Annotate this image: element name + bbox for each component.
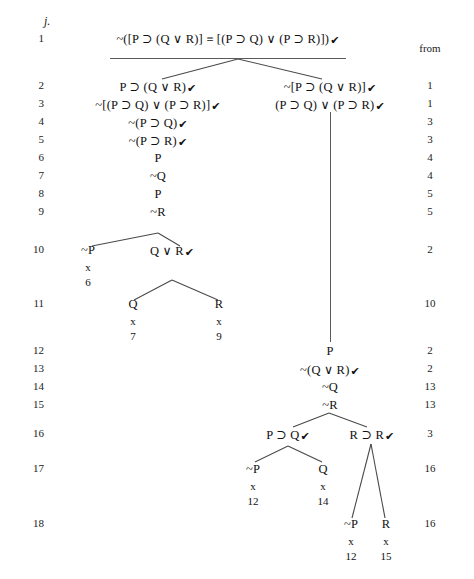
tree-node-r18b: R (382, 517, 391, 532)
from-value-row-2: 1 (417, 79, 443, 91)
line-number-15: 15 (22, 398, 44, 410)
closure-x-glyph: x (130, 315, 136, 327)
tree-node-l7: ~Q (150, 169, 166, 184)
tree-node-root-text: ~([P ⊃ (Q ∨ R)] ≡ [(P ⊃ Q) ∨ (P ⊃ R)]) (116, 32, 329, 46)
tree-node-r17b: Q (318, 462, 327, 477)
closure-mark-r18a: x (348, 535, 354, 547)
from-column-header: from (410, 42, 450, 54)
line-number-14: 14 (22, 380, 44, 392)
closure-mark-r17b: x (320, 480, 326, 492)
checkmark-icon: ✔ (177, 136, 187, 149)
line-number-5: 5 (22, 133, 44, 145)
line-number-8: 8 (22, 187, 44, 199)
tree-node-l8: P (154, 187, 161, 202)
closure-ref-r18a: 12 (346, 550, 357, 562)
tree-node-r16a-text: P ⊃ Q (266, 428, 299, 442)
from-value-row-6: 4 (417, 151, 443, 163)
closure-ref-l11a: 7 (130, 330, 136, 342)
checkmark-icon: ✔ (329, 34, 339, 47)
line-number-6: 6 (22, 151, 44, 163)
tree-node-l11b: R (215, 297, 224, 312)
closure-mark-l10a: x (85, 261, 91, 273)
line-number-2: 2 (22, 79, 44, 91)
closure-ref-l10a: 6 (85, 276, 91, 288)
closure-mark-l11a: x (130, 315, 136, 327)
tree-node-r13: ~(Q ∨ R)✔ (300, 362, 360, 378)
from-value-row-15: 13 (417, 398, 443, 410)
from-value-row-13: 2 (417, 362, 443, 374)
closure-ref-r17a: 12 (248, 495, 259, 507)
checkmark-icon: ✔ (177, 118, 187, 131)
tree-node-r17a: ~P (246, 462, 260, 477)
tree-node-r16b: R ⊃ R✔ (350, 427, 395, 443)
closure-x-glyph: x (320, 480, 326, 492)
closure-mark-r17a: x (250, 480, 256, 492)
line-number-12: 12 (22, 344, 44, 356)
tree-node-l4-text: ~(P ⊃ Q) (128, 116, 177, 130)
closure-ref-text: 6 (85, 276, 91, 288)
tree-node-r16b-text: R ⊃ R (350, 428, 384, 442)
exercise-label: j. (44, 14, 50, 29)
closure-x-glyph: x (250, 480, 256, 492)
checkmark-icon: ✔ (350, 365, 360, 378)
closure-mark-r18b: x (383, 535, 389, 547)
checkmark-icon: ✔ (184, 246, 194, 259)
tree-node-r13-text: ~(Q ∨ R) (300, 363, 349, 377)
line-number-4: 4 (22, 115, 44, 127)
from-value-row-11: 10 (417, 297, 443, 309)
tree-node-l3-text: ~[(P ⊃ Q) ∨ (P ⊃ R)] (95, 98, 210, 112)
from-value-row-7: 4 (417, 169, 443, 181)
from-value-row-14: 13 (417, 380, 443, 392)
tree-node-l9: ~R (150, 205, 166, 220)
closure-x-glyph: x (383, 535, 389, 547)
tree-node-r12: P (326, 344, 333, 359)
closure-ref-text: 12 (346, 550, 357, 562)
line-number-13: 13 (22, 362, 44, 374)
line-number-10: 10 (22, 243, 44, 255)
checkmark-icon: ✔ (366, 82, 376, 95)
closure-ref-l11b: 9 (216, 330, 222, 342)
closure-ref-r17b: 14 (318, 495, 329, 507)
from-value-row-3: 1 (417, 97, 443, 109)
closure-ref-text: 7 (130, 330, 136, 342)
tree-node-l2-text: P ⊃ (Q ∨ R) (120, 80, 187, 94)
closure-x-glyph: x (85, 261, 91, 273)
tree-node-l11a: Q (128, 297, 137, 312)
closure-x-glyph: x (348, 535, 354, 547)
checkmark-icon: ✔ (384, 430, 394, 443)
tree-node-root: ~([P ⊃ (Q ∨ R)] ≡ [(P ⊃ Q) ∨ (P ⊃ R)])✔ (116, 31, 339, 47)
tree-node-l5: ~(P ⊃ R)✔ (129, 133, 188, 149)
from-value-row-5: 3 (417, 133, 443, 145)
tree-node-l6: P (154, 151, 161, 166)
closure-ref-text: 14 (318, 495, 329, 507)
root-underline (110, 58, 346, 59)
closure-ref-text: 12 (248, 495, 259, 507)
tree-connector-lines (0, 0, 474, 579)
checkmark-icon: ✔ (210, 100, 220, 113)
from-value-row-16: 3 (417, 427, 443, 439)
checkmark-icon: ✔ (299, 430, 309, 443)
tree-node-r16a: P ⊃ Q✔ (266, 427, 310, 443)
tree-node-r18a: ~P (344, 517, 358, 532)
from-value-row-10: 2 (417, 243, 443, 255)
tree-node-l5-text: ~(P ⊃ R) (129, 134, 177, 148)
closure-ref-text: 9 (216, 330, 222, 342)
line-number-16: 16 (22, 427, 44, 439)
tree-node-l10a: ~P (81, 243, 95, 258)
tree-node-l10b-text: Q ∨ R (150, 244, 184, 258)
line-number-3: 3 (22, 97, 44, 109)
closure-ref-text: 15 (381, 550, 392, 562)
from-value-row-12: 2 (417, 344, 443, 356)
checkmark-icon: ✔ (186, 82, 196, 95)
closure-mark-l11b: x (216, 315, 222, 327)
checkmark-icon: ✔ (374, 100, 384, 113)
line-number-9: 9 (22, 205, 44, 217)
tree-node-r14: ~Q (322, 380, 338, 395)
line-number-1: 1 (22, 32, 44, 44)
tree-node-r3: (P ⊃ Q) ∨ (P ⊃ R)✔ (275, 97, 385, 113)
from-value-row-8: 5 (417, 187, 443, 199)
tree-node-l2: P ⊃ (Q ∨ R)✔ (120, 79, 197, 95)
tree-node-r15: ~R (322, 398, 338, 413)
from-value-row-9: 5 (417, 205, 443, 217)
right-branch-stem (330, 112, 331, 342)
